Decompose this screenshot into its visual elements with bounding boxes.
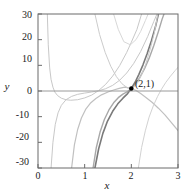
y-tick-label-neg20: -20: [1, 131, 29, 142]
x-tick-label-1: 1: [77, 170, 93, 181]
figure: y x 30 20 10 0 -10 -20 -30 0 1 2 3 (2,1): [0, 0, 193, 195]
x-tick-label-0: 0: [30, 170, 46, 181]
curve-curve-8: [114, 14, 149, 45]
y-tick-label-neg10: -10: [1, 109, 29, 120]
x-tick-label-2: 2: [123, 170, 139, 181]
y-tick-label-20: 20: [4, 31, 32, 42]
annotation-point-label: (2,1): [135, 78, 154, 89]
y-tick-label-30: 30: [4, 9, 32, 20]
y-tick-label-10: 10: [4, 53, 32, 64]
x-tick-label-3: 3: [170, 170, 186, 181]
y-tick-label-neg30: -30: [1, 156, 29, 167]
marker-point: [129, 86, 133, 90]
x-axis-title: x: [100, 179, 114, 191]
curve-curve-3: [72, 87, 178, 168]
y-tick-label-0: 0: [4, 85, 32, 96]
data-point-marker: [129, 86, 133, 90]
